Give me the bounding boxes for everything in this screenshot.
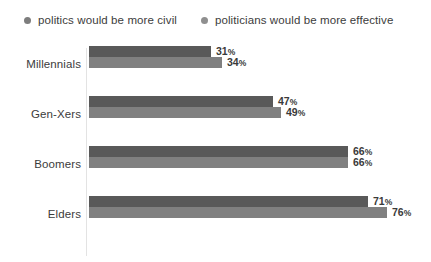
legend-label-effective: politicians would be more effective (215, 14, 393, 26)
category-label-elders: Elders (0, 207, 81, 221)
bar-value-effective-gen-xers: 49% (286, 107, 305, 119)
bar-civil-elders (89, 196, 368, 207)
bar-value-effective-boomers: 66% (353, 157, 372, 169)
table-row: 34% (89, 57, 246, 68)
bar-pair-elders: 71% 76% (89, 196, 411, 218)
bar-pair-boomers: 66% 66% (89, 146, 372, 168)
bar-value-effective-elders: 76% (392, 207, 411, 219)
legend-label-civil: politics would be more civil (38, 14, 177, 26)
table-row: 71% (89, 196, 411, 207)
plot-area: Millennials 31% 34% Gen-Xers 47% (0, 38, 431, 262)
bar-effective-millennials (89, 57, 222, 68)
table-row: 66% (89, 146, 372, 157)
category-label-boomers: Boomers (0, 157, 81, 171)
bar-chart: politics would be more civil politicians… (0, 0, 431, 262)
bar-effective-boomers (89, 157, 348, 168)
bar-civil-boomers (89, 146, 348, 157)
bar-group-elders: Elders 71% 76% (0, 196, 431, 238)
table-row: 76% (89, 207, 411, 218)
bar-value-civil-elders: 71% (373, 196, 392, 208)
bar-pair-millennials: 31% 34% (89, 46, 246, 68)
chart-legend: politics would be more civil politicians… (0, 9, 431, 31)
category-label-gen-xers: Gen-Xers (0, 107, 81, 121)
legend-dot-icon-effective (201, 17, 208, 24)
legend-dot-icon-civil (24, 17, 31, 24)
legend-item-civil: politics would be more civil (24, 14, 177, 26)
table-row: 66% (89, 157, 372, 168)
bar-group-millennials: Millennials 31% 34% (0, 46, 431, 88)
bar-civil-gen-xers (89, 96, 273, 107)
bar-value-effective-millennials: 34% (227, 57, 246, 69)
table-row: 49% (89, 107, 305, 118)
table-row: 47% (89, 96, 305, 107)
bar-civil-millennials (89, 46, 211, 57)
bar-pair-gen-xers: 47% 49% (89, 96, 305, 118)
bar-effective-gen-xers (89, 107, 281, 118)
bar-group-boomers: Boomers 66% 66% (0, 146, 431, 188)
table-row: 31% (89, 46, 246, 57)
bar-group-gen-xers: Gen-Xers 47% 49% (0, 96, 431, 138)
bar-effective-elders (89, 207, 387, 218)
legend-item-effective: politicians would be more effective (201, 14, 393, 26)
category-label-millennials: Millennials (0, 57, 81, 71)
